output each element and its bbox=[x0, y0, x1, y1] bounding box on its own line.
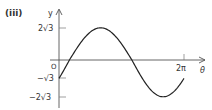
y-tick-label-neg-root3: −√3 bbox=[37, 74, 54, 83]
y-axis-label: y bbox=[48, 9, 53, 18]
x-tick-label-2pi: 2π bbox=[176, 64, 186, 73]
origin-label: O bbox=[51, 63, 57, 71]
y-tick-label-neg-2root3: −2√3 bbox=[29, 93, 51, 102]
x-axis-label: θ bbox=[200, 66, 205, 75]
sine-curve bbox=[59, 28, 184, 97]
sine-graph: y 2√3 O −√3 −2√3 2π θ bbox=[0, 0, 212, 110]
y-tick-label-2root3: 2√3 bbox=[38, 24, 53, 33]
